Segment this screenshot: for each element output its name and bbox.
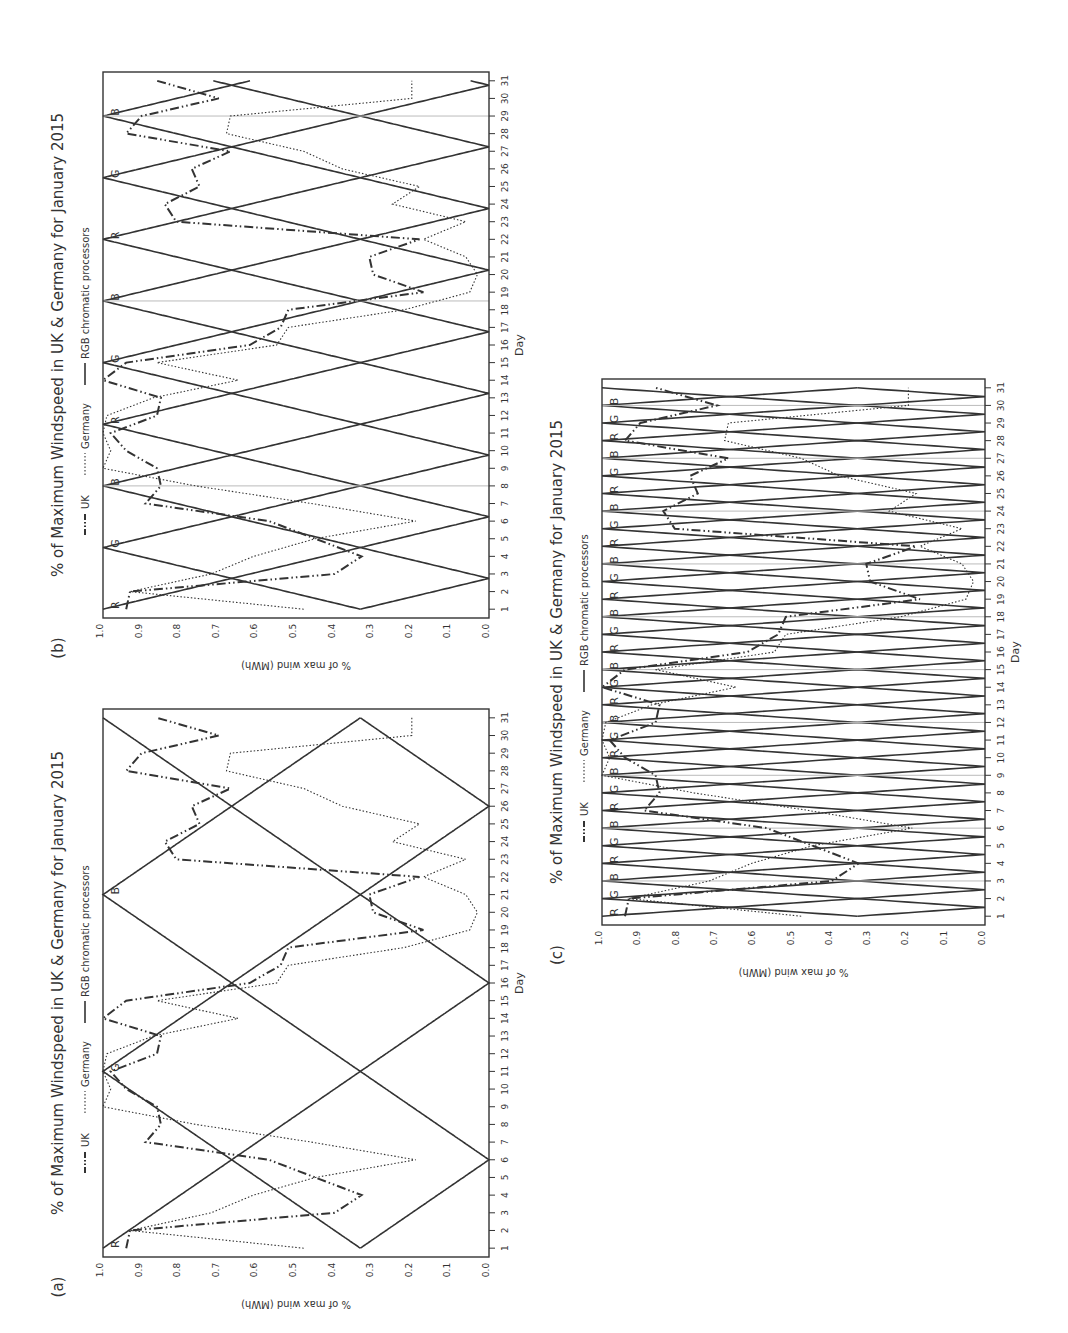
wind-figure: RGB1234567891011121314151617181920212223… bbox=[0, 0, 1068, 1333]
x-tick-label: 29 bbox=[500, 110, 510, 122]
rgb-peak-label: B bbox=[608, 398, 621, 406]
x-tick-label: 23 bbox=[500, 216, 510, 227]
rgb-peak-label: B bbox=[608, 503, 621, 511]
rgb-peak-label: R bbox=[608, 485, 621, 493]
rgb-peak-label: G bbox=[109, 354, 122, 363]
x-tick-label: 3 bbox=[500, 571, 510, 577]
x-tick-label: 18 bbox=[500, 942, 510, 954]
x-tick-label: 1 bbox=[500, 1245, 510, 1251]
y-tick-label: 0.2 bbox=[404, 1263, 414, 1277]
x-tick-label: 14 bbox=[500, 1012, 510, 1024]
y-tick-label: 0.3 bbox=[365, 624, 375, 638]
rgb-peak-label: R bbox=[608, 855, 621, 863]
x-tick-label: 19 bbox=[500, 286, 510, 298]
x-tick-label: 8 bbox=[996, 790, 1006, 796]
x-tick-label: 24 bbox=[500, 198, 510, 210]
x-tick-label: 2 bbox=[500, 1228, 510, 1234]
y-tick-label: 0.4 bbox=[327, 1263, 337, 1278]
y-tick-label: 0.8 bbox=[172, 624, 182, 639]
rgb-peak-label: R bbox=[109, 231, 122, 239]
x-tick-label: 8 bbox=[500, 1121, 510, 1127]
x-tick-label: 2 bbox=[500, 589, 510, 595]
y-tick-label: 0.3 bbox=[862, 931, 872, 945]
x-tick-label: 21 bbox=[996, 558, 1006, 569]
rgb-peak-label: G bbox=[608, 785, 621, 794]
x-tick-label: 29 bbox=[500, 747, 510, 759]
rgb-peak-label: B bbox=[608, 873, 621, 881]
y-axis-value: 0.00.10.20.30.40.50.60.70.80.91.0% of ma… bbox=[95, 1263, 491, 1310]
x-tick-label: 30 bbox=[996, 399, 1006, 411]
rgb-lines bbox=[103, 718, 489, 1248]
rgb-peak-label: B bbox=[608, 820, 621, 828]
rgb-line-g bbox=[103, 718, 489, 1248]
legend-label: Germany bbox=[80, 1041, 91, 1087]
rgb-peak-label: G bbox=[608, 520, 621, 529]
rgb-peak-label: G bbox=[608, 468, 621, 477]
series-germany bbox=[602, 388, 974, 916]
figure-stage: RGB1234567891011121314151617181920212223… bbox=[0, 0, 1068, 1333]
rgb-peak-label: B bbox=[608, 450, 621, 458]
x-tick-label: 1 bbox=[500, 606, 510, 612]
x-tick-label: 7 bbox=[500, 501, 510, 507]
x-axis-day: 1234567891011121314151617181920212223242… bbox=[489, 75, 526, 612]
rgb-peak-label: B bbox=[608, 609, 621, 617]
rgb-peak-label: B bbox=[608, 662, 621, 670]
rgb-peak-label: B bbox=[109, 293, 122, 301]
x-tick-label: 17 bbox=[500, 960, 510, 971]
x-tick-label: 19 bbox=[996, 593, 1006, 605]
y-tick-label: 0.2 bbox=[404, 624, 414, 638]
rgb-line-r bbox=[103, 81, 489, 609]
x-tick-label: 6 bbox=[500, 1157, 510, 1163]
x-tick-label: 26 bbox=[996, 470, 1006, 482]
x-tick-label: 30 bbox=[500, 92, 510, 104]
y-tick-label: 0.7 bbox=[211, 624, 221, 638]
x-tick-label: 18 bbox=[500, 304, 510, 316]
x-tick-label: 5 bbox=[996, 843, 1006, 849]
x-tick-label: 27 bbox=[500, 783, 510, 794]
x-tick-label: 15 bbox=[500, 995, 510, 1006]
x-tick-label: 22 bbox=[500, 871, 510, 882]
rgb-line-r bbox=[602, 388, 985, 916]
x-tick-label: 15 bbox=[996, 664, 1006, 675]
rgb-line-g bbox=[602, 388, 985, 916]
rgb-peak-label: G bbox=[608, 890, 621, 899]
y-tick-label: 0.8 bbox=[172, 1263, 182, 1278]
y-tick-label: 0.9 bbox=[134, 1263, 144, 1278]
x-tick-label: 10 bbox=[996, 752, 1006, 764]
y-axis-title: % of max wind (MWh) bbox=[241, 1299, 351, 1310]
panel-label: (c) bbox=[548, 945, 566, 965]
x-tick-label: 20 bbox=[996, 576, 1006, 588]
rgb-peak-label: B bbox=[109, 108, 122, 116]
y-tick-label: 0.9 bbox=[134, 624, 144, 639]
legend-label: Germany bbox=[80, 403, 91, 449]
y-tick-label: 0.4 bbox=[824, 931, 834, 946]
legend-label: UK bbox=[80, 495, 91, 509]
y-tick-label: 0.7 bbox=[709, 931, 719, 945]
rgb-peak-label: G bbox=[109, 169, 122, 178]
x-tick-label: 1 bbox=[996, 913, 1006, 919]
y-tick-label: 0.6 bbox=[249, 624, 259, 639]
panel-c: RGBRGBRGBRGBRGBRGBRGBRGBRGBRGB1234567891… bbox=[548, 379, 1022, 978]
legend: UKGermanyRGB chromatic processors bbox=[80, 865, 91, 1173]
rgb-lines bbox=[103, 81, 489, 609]
x-tick-label: 20 bbox=[500, 906, 510, 918]
x-tick-label: 14 bbox=[996, 681, 1006, 693]
y-tick-label: 0.9 bbox=[632, 931, 642, 946]
x-tick-label: 9 bbox=[500, 465, 510, 471]
y-axis-value: 0.00.10.20.30.40.50.60.70.80.91.0% of ma… bbox=[95, 624, 491, 671]
x-tick-label: 26 bbox=[500, 163, 510, 175]
x-tick-label: 31 bbox=[996, 382, 1006, 393]
plot-frame bbox=[602, 379, 985, 925]
y-tick-label: 1.0 bbox=[95, 624, 105, 639]
x-tick-label: 19 bbox=[500, 924, 510, 936]
y-tick-label: 1.0 bbox=[594, 931, 604, 946]
rgb-line-b bbox=[602, 388, 985, 916]
x-tick-label: 21 bbox=[500, 889, 510, 900]
x-tick-label: 30 bbox=[500, 730, 510, 742]
x-tick-label: 4 bbox=[996, 860, 1006, 866]
x-tick-label: 3 bbox=[996, 878, 1006, 884]
x-tick-label: 17 bbox=[500, 322, 510, 333]
rgb-peak-label: B bbox=[109, 887, 122, 895]
x-tick-label: 21 bbox=[500, 251, 510, 262]
chart-title: % of Maximum Windspeed in UK & Germany f… bbox=[548, 420, 566, 884]
